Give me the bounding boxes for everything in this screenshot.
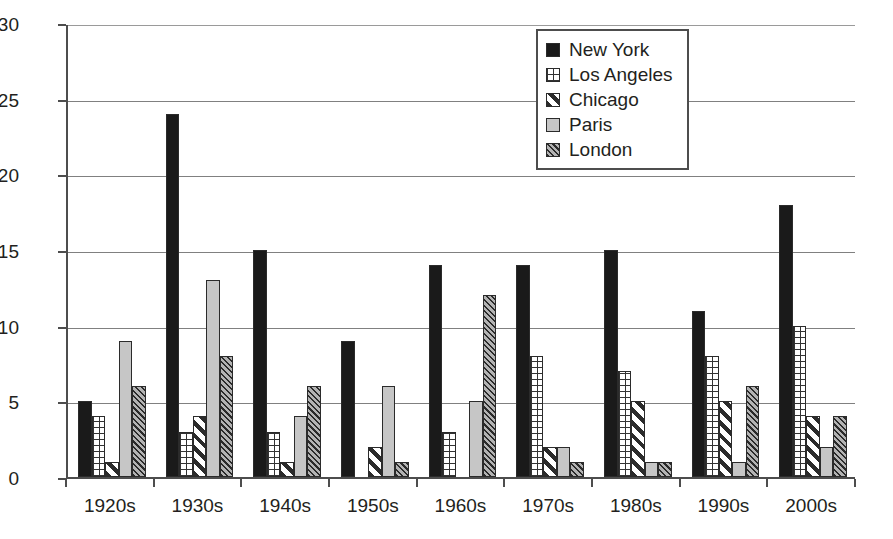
bar-london-1980s: [658, 462, 672, 477]
x-tick-label: 1980s: [592, 495, 680, 517]
bar-losangeles-1940s: [267, 432, 281, 477]
legend-label: Chicago: [569, 90, 639, 110]
bar-newyork-1950s: [341, 341, 355, 477]
bar-newyork-1920s: [78, 401, 92, 477]
legend-label: Los Angeles: [569, 65, 673, 85]
bar-group: [779, 23, 847, 477]
y-tick-label: 5: [0, 393, 19, 412]
x-tick-mark: [65, 479, 67, 487]
bar-newyork-1970s: [516, 265, 530, 477]
x-tick-mark: [416, 479, 418, 487]
bar-losangeles-1980s: [618, 371, 632, 477]
y-tick-mark: [58, 100, 66, 102]
bar-london-1920s: [132, 386, 146, 477]
bar-group: [429, 23, 497, 477]
bar-losangeles-1970s: [530, 356, 544, 477]
bar-london-1960s: [483, 295, 497, 477]
x-tick-label: 1920s: [66, 495, 154, 517]
bar-london-1990s: [746, 386, 760, 477]
bar-losangeles-1960s: [442, 432, 456, 477]
bar-newyork-1960s: [429, 265, 443, 477]
x-tick-mark: [591, 479, 593, 487]
legend-swatch-icon: [546, 93, 560, 107]
x-tick-label: 1940s: [241, 495, 329, 517]
legend-item-chicago: Chicago: [546, 87, 673, 112]
bar-paris-1970s: [557, 447, 571, 477]
y-tick-mark: [58, 175, 66, 177]
bar-london-1940s: [307, 386, 321, 477]
legend-item-losangeles: Los Angeles: [546, 62, 673, 87]
x-tick-label: 1990s: [680, 495, 768, 517]
bar-chicago-1980s: [631, 401, 645, 477]
bar-chicago-1950s: [368, 447, 382, 477]
x-tick-label: 2000s: [767, 495, 855, 517]
bar-london-1950s: [395, 462, 409, 477]
legend-swatch-icon: [546, 43, 560, 57]
x-tick-label: 1960s: [417, 495, 505, 517]
y-tick-mark: [58, 251, 66, 253]
bar-group: [341, 23, 409, 477]
legend-swatch-icon: [546, 143, 560, 157]
x-tick-mark: [328, 479, 330, 487]
legend-item-london: London: [546, 137, 673, 162]
x-tick-label: 1930s: [154, 495, 242, 517]
y-tick-label: 25: [0, 91, 19, 110]
y-tick-label: 20: [0, 166, 19, 185]
bar-chicago-1930s: [193, 416, 207, 477]
bar-paris-1940s: [294, 416, 308, 477]
bar-losangeles-1930s: [179, 432, 193, 477]
plot-area: [66, 25, 855, 479]
bar-group: [253, 23, 321, 477]
bar-paris-1950s: [382, 386, 396, 477]
bar-chicago-1940s: [280, 462, 294, 477]
bar-chicago-1990s: [719, 401, 733, 477]
bar-paris-1990s: [732, 462, 746, 477]
bar-losangeles-1990s: [705, 356, 719, 477]
x-tick-label: 1970s: [504, 495, 592, 517]
chart-legend: New YorkLos AngelesChicagoParisLondon: [536, 29, 689, 170]
x-tick-label: 1950s: [329, 495, 417, 517]
y-tick-label: 10: [0, 318, 19, 337]
x-tick-mark: [153, 479, 155, 487]
x-tick-mark: [240, 479, 242, 487]
y-tick-label: 15: [0, 242, 19, 261]
legend-item-paris: Paris: [546, 112, 673, 137]
legend-label: London: [569, 140, 632, 160]
x-tick-mark: [679, 479, 681, 487]
bar-paris-1930s: [206, 280, 220, 477]
bar-chicago-2000s: [806, 416, 820, 477]
legend-label: Paris: [569, 115, 612, 135]
x-tick-mark: [766, 479, 768, 487]
x-tick-mark: [854, 479, 856, 487]
bar-london-1930s: [220, 356, 234, 477]
y-tick-label: 0: [0, 469, 19, 488]
bar-chart: 051015202530 1920s1930s1940s1950s1960s19…: [0, 0, 893, 539]
bar-paris-1960s: [469, 401, 483, 477]
y-tick-mark: [58, 327, 66, 329]
bar-group: [692, 23, 760, 477]
bar-newyork-2000s: [779, 205, 793, 477]
x-tick-mark: [503, 479, 505, 487]
bar-group: [166, 23, 234, 477]
legend-item-newyork: New York: [546, 37, 673, 62]
bar-newyork-1990s: [692, 311, 706, 477]
bar-losangeles-1920s: [92, 416, 106, 477]
bar-paris-1920s: [119, 341, 133, 477]
bar-newyork-1930s: [166, 114, 180, 477]
bar-london-1970s: [570, 462, 584, 477]
bar-chicago-1920s: [105, 462, 119, 477]
bar-newyork-1980s: [604, 250, 618, 477]
bar-losangeles-2000s: [793, 326, 807, 477]
legend-swatch-icon: [546, 118, 560, 132]
bar-paris-1980s: [645, 462, 659, 477]
bar-group: [78, 23, 146, 477]
y-tick-mark: [58, 24, 66, 26]
y-tick-mark: [58, 402, 66, 404]
legend-label: New York: [569, 40, 649, 60]
bar-london-2000s: [833, 416, 847, 477]
legend-swatch-icon: [546, 68, 560, 82]
bar-chicago-1970s: [543, 447, 557, 477]
y-tick-label: 30: [0, 15, 19, 34]
bar-paris-2000s: [820, 447, 834, 477]
bar-newyork-1940s: [253, 250, 267, 477]
